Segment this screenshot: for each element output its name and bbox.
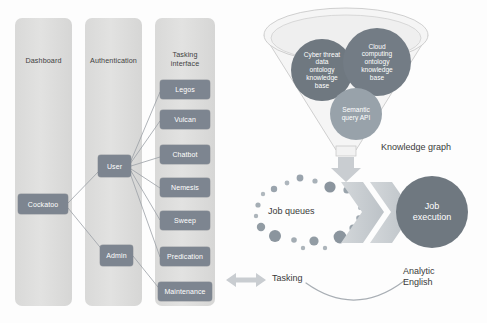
queue-dot: [285, 181, 290, 186]
queue-dot: [255, 202, 260, 207]
diagram-vector-layer: [0, 0, 487, 323]
node-nemesis[interactable]: Nemesis: [160, 178, 210, 197]
queue-dot: [324, 181, 335, 192]
node-maintenance[interactable]: Maintenance: [158, 282, 212, 301]
queue-dot: [301, 246, 305, 250]
funnel-stem: [336, 146, 356, 156]
tasking-to-analytic-curve: [306, 281, 404, 300]
column-panel-dashboard: [15, 18, 72, 306]
node-vulcan[interactable]: Vulcan: [160, 110, 210, 129]
node-sweep[interactable]: Sweep: [160, 211, 210, 230]
node-user[interactable]: User: [98, 155, 131, 177]
queue-dot: [271, 186, 277, 192]
queue-dot: [291, 237, 297, 243]
queue-dot: [269, 230, 281, 242]
queue-dot: [309, 236, 318, 245]
queue-dot: [297, 175, 304, 182]
funnel-output-arrow: [331, 157, 361, 182]
circle-semantic-query-api: [330, 88, 382, 140]
node-predication[interactable]: Predication: [160, 247, 210, 266]
tasking-double-arrow: [226, 273, 266, 287]
node-cockatoo[interactable]: Cockatoo: [18, 194, 68, 214]
queue-dot: [254, 214, 258, 218]
diagram-canvas: Dashboard Authentication Tasking interfa…: [0, 0, 487, 323]
queue-dot: [257, 223, 265, 231]
node-legos[interactable]: Legos: [160, 80, 210, 99]
circle-job-execution: [396, 176, 468, 248]
node-admin[interactable]: Admin: [100, 245, 133, 266]
node-chatbot[interactable]: Chatbot: [160, 145, 210, 164]
queue-dot: [323, 246, 327, 250]
knowledge-graph-funnel: [264, 8, 428, 156]
queue-dot: [312, 178, 317, 183]
circle-cloud-computing-kb: [343, 28, 411, 96]
queue-dot: [261, 192, 265, 196]
